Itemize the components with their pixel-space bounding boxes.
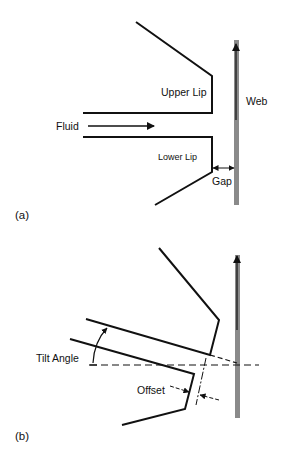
tilted-lower-lip-outline — [70, 339, 194, 425]
gap-label: Gap — [212, 175, 232, 187]
upper-lip-outline — [83, 22, 212, 113]
panel-a-label: (a) — [15, 209, 29, 221]
slot-axis-extension — [210, 355, 237, 363]
panel-b: Tilt Angle Offset (b) — [15, 248, 259, 442]
upper-lip-label: Upper Lip — [161, 86, 207, 98]
tilted-upper-lip-outline — [86, 248, 219, 355]
panel-a: Upper Lip Web Fluid Lower Lip Gap (a) — [15, 22, 268, 221]
lower-lip-label: Lower Lip — [158, 152, 197, 162]
tilt-angle-label: Tilt Angle — [36, 352, 79, 364]
offset-arrow-right — [200, 395, 219, 400]
lower-lip-outline — [83, 137, 212, 205]
fluid-label: Fluid — [56, 120, 79, 132]
panel-b-label: (b) — [15, 430, 29, 442]
slot-die-diagram: Upper Lip Web Fluid Lower Lip Gap (a) Ti… — [0, 0, 285, 467]
web-label: Web — [246, 95, 268, 107]
offset-arrow-left — [170, 386, 189, 392]
offset-label: Offset — [137, 384, 165, 396]
